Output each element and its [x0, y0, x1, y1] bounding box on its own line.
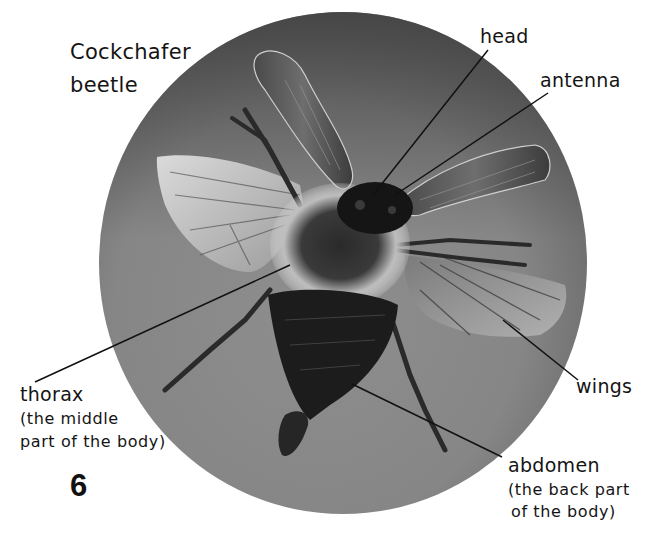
label-wings: wings: [576, 372, 632, 400]
label-head: head: [480, 22, 529, 50]
label-abdomen-desc-2: of the body): [511, 501, 616, 523]
label-antenna: antenna: [540, 66, 621, 94]
label-thorax-desc-2: part of the body): [20, 431, 166, 453]
page-number: 6: [70, 468, 87, 504]
label-abdomen-desc-1: (the back part: [508, 479, 630, 501]
label-abdomen: abdomen: [508, 451, 600, 479]
title-line-1: Cockchafer: [70, 36, 191, 69]
label-thorax-desc-1: (the middle: [20, 408, 119, 430]
title-line-2: beetle: [70, 69, 138, 102]
label-thorax: thorax: [20, 380, 84, 408]
